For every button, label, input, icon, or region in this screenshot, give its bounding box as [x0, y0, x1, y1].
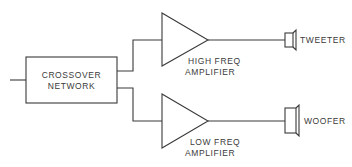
tweeter-speaker: TWEETER	[285, 30, 346, 50]
high-amp-label-line2: AMPLIFIER	[185, 67, 235, 77]
tweeter-label: TWEETER	[300, 35, 346, 45]
low-amp-label-line2: AMPLIFIER	[185, 148, 235, 158]
low-freq-amplifier: LOW FREQ AMPLIFIER	[162, 94, 240, 158]
crossover-box	[26, 57, 117, 103]
woofer-label: WOOFER	[304, 116, 346, 126]
woofer-speaker: WOOFER	[285, 105, 346, 136]
tweeter-speaker-icon	[285, 33, 293, 47]
low-amp-label-line1: LOW FREQ	[190, 137, 240, 147]
high-path-wire	[117, 40, 162, 71]
high-freq-amplifier: HIGH FREQ AMPLIFIER	[162, 13, 241, 77]
crossover-network-block: CROSSOVER NETWORK	[26, 57, 117, 103]
high-amp-label-line1: HIGH FREQ	[188, 56, 241, 66]
crossover-label-line2: NETWORK	[48, 81, 96, 91]
crossover-diagram: CROSSOVER NETWORK HIGH FREQ AMPLIFIER LO…	[0, 0, 352, 167]
woofer-speaker-icon	[285, 108, 296, 133]
low-path-wire	[117, 88, 162, 121]
crossover-label-line1: CROSSOVER	[42, 70, 102, 80]
